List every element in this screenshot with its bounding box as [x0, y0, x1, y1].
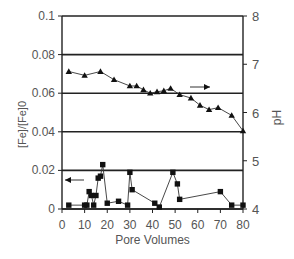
- right-axis-title: pH: [270, 110, 284, 125]
- square-marker: [157, 204, 162, 209]
- triangle-marker: [228, 112, 234, 118]
- square-marker: [116, 199, 121, 204]
- square-marker: [93, 193, 98, 198]
- triangle-marker: [66, 68, 72, 74]
- triangle-marker: [140, 87, 146, 93]
- x-tick-label: 80: [236, 218, 250, 232]
- square-marker: [218, 189, 223, 194]
- triangle-marker: [111, 76, 117, 82]
- x-tick-label: 40: [146, 218, 160, 232]
- x-tick-label: 70: [214, 218, 228, 232]
- right-tick-label: 5: [252, 154, 259, 169]
- left-tick-label: 0: [48, 202, 55, 216]
- chart: 00.020.040.060.080.145678010203040506070…: [0, 0, 294, 259]
- triangle-marker: [176, 91, 182, 97]
- square-marker: [100, 162, 105, 167]
- right-tick-label: 8: [252, 9, 259, 24]
- x-tick-label: 60: [191, 218, 205, 232]
- triangle-marker: [97, 68, 103, 74]
- arrow-head: [65, 177, 71, 183]
- square-marker: [91, 202, 96, 207]
- x-tick-label: 20: [101, 218, 115, 232]
- x-tick-label: 50: [168, 218, 182, 232]
- left-tick-label: 0.02: [32, 163, 56, 177]
- square-marker: [127, 170, 132, 175]
- triangle-marker: [215, 104, 221, 110]
- arrow-head: [204, 84, 210, 90]
- right-tick-label: 6: [252, 106, 259, 121]
- square-marker: [129, 187, 134, 192]
- series: [65, 68, 246, 209]
- left-tick-label: 0.08: [32, 48, 56, 62]
- left-tick-label: 0.06: [32, 86, 56, 100]
- square-marker: [177, 197, 182, 202]
- axis-labels: 00.020.040.060.080.145678010203040506070…: [16, 9, 284, 247]
- square-marker: [98, 173, 103, 178]
- square-marker: [84, 202, 89, 207]
- x-tick-label: 0: [59, 218, 66, 232]
- x-tick-label: 30: [123, 218, 137, 232]
- gridlines: [62, 16, 243, 209]
- square-marker: [105, 201, 110, 206]
- square-marker: [125, 202, 130, 207]
- x-tick-label: 10: [78, 218, 92, 232]
- square-marker: [170, 170, 175, 175]
- x-axis-title: Pore Volumes: [115, 233, 190, 247]
- series-line: [69, 71, 243, 130]
- square-marker: [66, 202, 71, 207]
- right-tick-label: 4: [252, 202, 259, 217]
- right-tick-label: 7: [252, 57, 259, 72]
- square-marker: [175, 181, 180, 186]
- square-marker: [240, 202, 245, 207]
- axes: [58, 16, 247, 213]
- left-tick-label: 0.1: [38, 9, 55, 23]
- left-axis-title: [Fe]/[Fe]0: [16, 101, 28, 148]
- triangle-marker: [167, 85, 173, 91]
- left-tick-label: 0.04: [32, 125, 56, 139]
- square-marker: [229, 202, 234, 207]
